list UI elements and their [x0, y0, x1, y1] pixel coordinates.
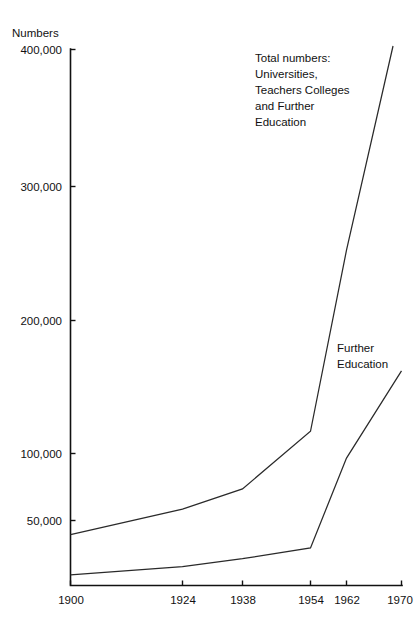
- x-tick-label-1938: 1938: [230, 594, 256, 606]
- annotation-total-numbers-line2: Universities,: [255, 68, 318, 80]
- x-tick-label-1900: 1900: [58, 594, 84, 606]
- annotation-further-education-line1: Further: [337, 342, 374, 354]
- y-tick-label-50000: 50,000: [27, 515, 62, 527]
- x-tick-label-1954: 1954: [298, 594, 324, 606]
- annotation-total-numbers-line5: Education: [255, 116, 306, 128]
- line-chart: Numbers 400,000 300,000 200,000 100,000 …: [0, 0, 418, 637]
- x-tick-label-1924: 1924: [170, 594, 196, 606]
- y-tick-label-200000: 200,000: [20, 315, 62, 327]
- annotation-total-numbers-line1: Total numbers:: [255, 52, 330, 64]
- y-tick-label-100000: 100,000: [20, 448, 62, 460]
- series-line-further-education: [71, 371, 402, 575]
- chart-page: Numbers 400,000 300,000 200,000 100,000 …: [0, 0, 418, 637]
- y-tick-label-300000: 300,000: [20, 181, 62, 193]
- x-tick-label-1962: 1962: [334, 594, 360, 606]
- x-tick-label-1970: 1970: [387, 594, 413, 606]
- annotation-further-education-line2: Education: [337, 358, 388, 370]
- y-tick-label-400000: 400,000: [20, 44, 62, 56]
- y-axis-title: Numbers: [12, 27, 59, 39]
- annotation-total-numbers-line4: and Further: [255, 100, 315, 112]
- chart-axes: [71, 49, 403, 586]
- annotation-total-numbers-line3: Teachers Colleges: [255, 84, 350, 96]
